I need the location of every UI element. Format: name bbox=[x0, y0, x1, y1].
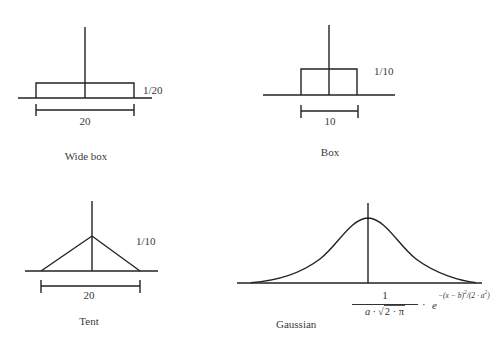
box-height-label: 1/10 bbox=[374, 65, 394, 77]
tent-height-label: 1/10 bbox=[136, 235, 156, 247]
gaussian-curve bbox=[251, 218, 476, 283]
multiply-dot: · bbox=[422, 298, 426, 310]
tent-graph bbox=[25, 201, 158, 293]
gaussian-formula: 1 a · √2 · π · e −(x − b)2/(2 · a2) bbox=[352, 289, 501, 349]
gaussian-title: Gaussian bbox=[276, 318, 316, 330]
formula-fraction: 1 a · √2 · π bbox=[352, 289, 418, 317]
wide-box-width-label: 20 bbox=[80, 115, 91, 127]
box-width-label: 10 bbox=[325, 115, 336, 127]
wide-box-title: Wide box bbox=[65, 150, 108, 162]
exponent-part2: /(2 · a bbox=[467, 291, 485, 300]
exponent-part3: ) bbox=[487, 291, 490, 300]
tent-shape bbox=[41, 236, 140, 271]
denominator-prefix: a · bbox=[365, 306, 378, 317]
exp-exponent: −(x − b)2/(2 · a2) bbox=[438, 289, 490, 300]
box-title: Box bbox=[321, 146, 339, 158]
sqrt-radicand: 2 · π bbox=[384, 305, 405, 317]
exponent-part1: −(x − b) bbox=[438, 291, 464, 300]
tent-width-label: 20 bbox=[84, 289, 95, 301]
sqrt-sign: √ bbox=[378, 306, 384, 317]
gaussian-graph bbox=[237, 203, 482, 283]
wide-box-height-label: 1/20 bbox=[143, 84, 163, 96]
formula-denominator: a · √2 · π bbox=[352, 306, 418, 317]
exp-base: e bbox=[432, 299, 437, 311]
formula-numerator: 1 bbox=[352, 289, 418, 302]
wide-box-graph bbox=[18, 27, 152, 116]
tent-title: Tent bbox=[79, 315, 98, 327]
